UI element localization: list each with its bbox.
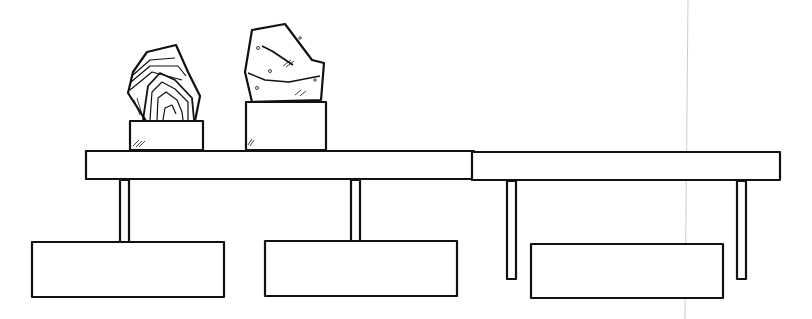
small-pedestal xyxy=(130,121,203,150)
table-top xyxy=(86,151,474,179)
left-table-group xyxy=(32,24,474,297)
speckled-stone xyxy=(245,24,324,102)
table-leg-left xyxy=(120,180,129,242)
base-block xyxy=(531,244,723,298)
table-leg-left xyxy=(507,181,516,279)
base-block-left xyxy=(32,242,224,297)
banded-stone xyxy=(128,45,200,121)
right-table-group xyxy=(472,152,780,298)
table-leg-right xyxy=(737,181,746,279)
base-block-right xyxy=(265,241,457,296)
tall-pedestal xyxy=(246,102,326,150)
table-top xyxy=(472,152,780,180)
illustration xyxy=(0,0,812,319)
table-leg-right xyxy=(351,180,360,241)
